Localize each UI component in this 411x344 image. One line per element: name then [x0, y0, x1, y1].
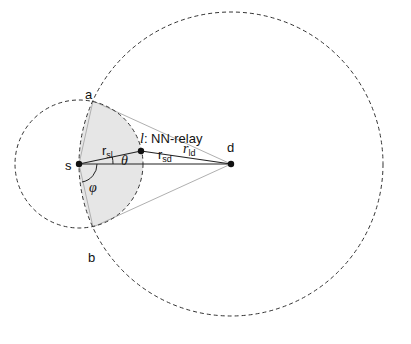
label-relay-text: : NN-relay	[144, 131, 203, 146]
label-r-sd: rsd	[158, 147, 172, 164]
label-d: d	[227, 140, 234, 155]
label-theta: θ	[121, 153, 128, 168]
node-d	[228, 161, 234, 167]
relay-geometry-diagram: s d a b l: NN-relay rsl rld rsd θ φ	[0, 0, 411, 344]
label-phi: φ	[89, 180, 97, 195]
node-l	[138, 148, 144, 154]
label-relay: l: NN-relay	[140, 131, 203, 146]
label-a: a	[85, 87, 93, 102]
node-s	[76, 161, 82, 167]
label-s: s	[65, 158, 72, 173]
label-b: b	[88, 250, 95, 265]
